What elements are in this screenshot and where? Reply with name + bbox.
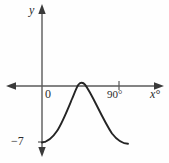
y-axis-label: y [29, 4, 34, 16]
x-tick-label-90: 90° [107, 89, 122, 100]
graph-figure: y x° 0 90° −7 [0, 0, 169, 163]
origin-label: 0 [45, 88, 51, 100]
graph-canvas [0, 0, 169, 163]
x-axis-left-arrow-icon [6, 82, 16, 89]
y-tick-label-minus-7: −7 [11, 135, 24, 147]
y-axis-up-arrow-icon [38, 4, 45, 14]
x-axis-label: x° [150, 88, 160, 100]
y-axis-down-arrow-icon [38, 147, 45, 157]
